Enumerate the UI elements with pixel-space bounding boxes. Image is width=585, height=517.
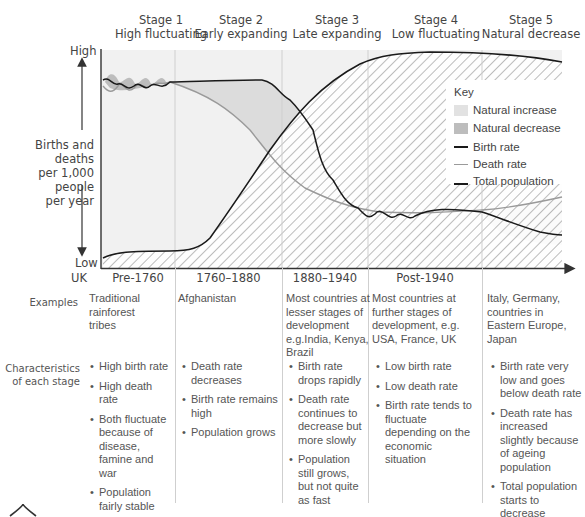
examples-stage-2: Afghanistan [178,292,278,306]
characteristics-stage-1: High birth rate High death rate Both flu… [90,360,172,517]
legend: Key Natural increase Natural decrease Bi… [446,80,574,184]
characteristic-item: Population grows [182,426,278,440]
characteristics-stage-5: Birth rate very low and goes below death… [491,360,583,517]
period-stage-3: 1880–1940 [282,271,368,285]
examples-stage-3: Most countries at lesser stages of devel… [286,292,370,360]
characteristic-item: High birth rate [90,360,172,374]
characteristic-item: Death rate has increased slightly becaus… [491,407,583,475]
characteristic-item: Low death rate [376,380,476,394]
examples-stage-1: Traditional rainforest tribes [89,292,159,333]
characteristic-item: Birth rate drops rapidly [289,360,365,387]
characteristics-stage-4: Low birth rate Low death rate Birth rate… [376,360,476,473]
period-stage-2: 1760–1880 [175,271,282,285]
legend-item-birth-rate: Birth rate [454,139,520,155]
examples-row-label: Examples [20,296,78,309]
characteristic-item: Birth rate tends to fluctuate depending … [376,399,476,467]
legend-item-death-rate: Death rate [454,156,527,172]
legend-title: Key [454,84,474,100]
characteristic-item: Population fairly stable [90,486,172,513]
legend-item-natural-increase: Natural increase [454,102,557,118]
legend-item-total-population: Total population [454,173,554,189]
natural-increase-swatch [454,105,468,116]
characteristic-item: Birth rate remains high [182,393,278,420]
characteristic-item: Death rate decreases [182,360,278,387]
characteristic-item: High death rate [90,380,172,407]
characteristic-item: Population still grows, but not quite as… [289,453,365,507]
period-stage-1: Pre-1760 [101,271,175,285]
characteristic-item: Low birth rate [376,360,476,374]
natural-decrease-swatch [454,123,468,134]
characteristics-stage-2: Death rate decreases Birth rate remains … [182,360,278,446]
examples-stage-5: Italy, Germany, countries in Eastern Eur… [487,292,577,346]
caret-up-icon [8,502,38,517]
legend-item-natural-decrease: Natural decrease [454,120,561,136]
period-stage-4: Post-1940 [368,271,482,285]
characteristics-stage-3: Birth rate drops rapidly Death rate cont… [289,360,365,513]
divider-2 [282,268,283,503]
characteristic-item: Birth rate very low and goes below death… [491,360,583,401]
divider-4 [482,268,483,503]
death-rate-line-icon [454,164,468,165]
characteristic-item: Both fluctuate because of disease, famin… [90,413,172,481]
characteristics-row-label: Characteristics of each stage [4,362,80,388]
characteristic-item: Death rate continues to decrease but mor… [289,393,365,447]
birth-rate-line-icon [454,146,468,148]
divider-1 [175,268,176,503]
examples-stage-4: Most countries at further stages of deve… [372,292,476,346]
characteristic-item: Total population starts to decrease [491,480,583,517]
population-line-icon [454,183,468,185]
